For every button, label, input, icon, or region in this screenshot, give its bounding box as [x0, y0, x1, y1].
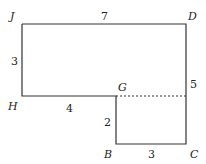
vertex-label-h: H — [7, 100, 18, 113]
length-jh: 3 — [11, 55, 18, 68]
length-dc: 5 — [190, 78, 197, 91]
length-hg: 4 — [66, 102, 73, 115]
length-gb: 2 — [104, 116, 111, 129]
vertex-label-g: G — [118, 81, 127, 94]
length-jd: 7 — [101, 10, 108, 23]
geometry-diagram: J D C B G H 7 3 4 2 3 5 — [0, 0, 206, 164]
vertex-label-b: B — [103, 148, 112, 161]
length-bc: 3 — [148, 148, 155, 161]
vertex-label-j: J — [8, 10, 15, 23]
vertex-label-c: C — [190, 148, 199, 161]
vertex-label-d: D — [187, 10, 197, 23]
